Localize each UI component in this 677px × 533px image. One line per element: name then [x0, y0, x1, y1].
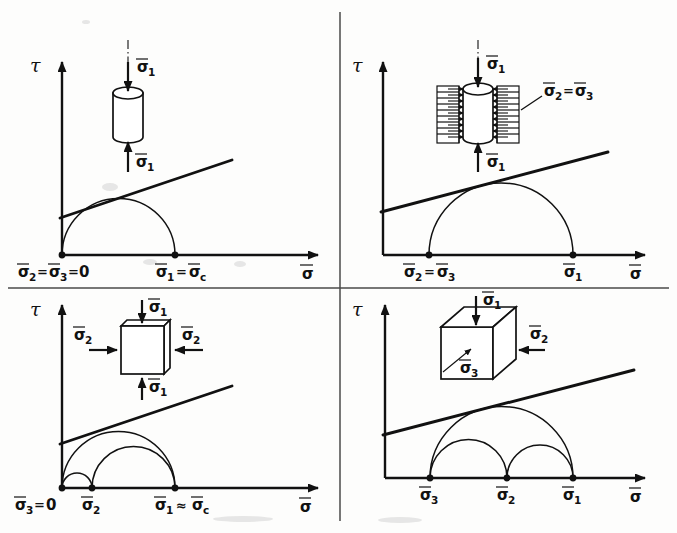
svg-text:=: =	[68, 264, 79, 279]
svg-text:σ: σ	[630, 488, 642, 506]
sigma-axis-label-tl: σ	[300, 265, 314, 283]
cylinder-body-tr	[463, 89, 493, 144]
svg-text:1: 1	[160, 386, 167, 398]
svg-text:=: =	[37, 264, 48, 279]
svg-text:1: 1	[160, 306, 167, 318]
cylinder-body-tl	[113, 93, 143, 143]
svg-text:2: 2	[508, 494, 515, 506]
svg-text:σ: σ	[300, 498, 312, 516]
svg-text:c: c	[203, 504, 209, 516]
svg-text:σ: σ	[564, 263, 576, 281]
svg-text:σ: σ	[49, 263, 61, 281]
tick-dot-br-sigma1	[570, 475, 577, 482]
svg-text:=: =	[424, 264, 435, 279]
svg-text:0: 0	[46, 496, 56, 514]
svg-text:1: 1	[574, 494, 581, 506]
svg-text:=: =	[176, 264, 187, 279]
svg-text:σ: σ	[487, 55, 499, 73]
tau-axis-label-br: τ	[352, 298, 363, 320]
svg-text:≈: ≈	[176, 498, 187, 513]
svg-text:σ: σ	[483, 291, 495, 309]
svg-text:σ: σ	[544, 82, 556, 100]
svg-text:σ: σ	[149, 378, 161, 396]
svg-text:1: 1	[167, 271, 174, 283]
svg-text:1: 1	[166, 504, 173, 516]
svg-text:2: 2	[541, 333, 548, 345]
block-right-face-bl	[164, 320, 170, 374]
svg-text:σ: σ	[530, 325, 542, 343]
tick-dot-br-sigma2	[504, 475, 511, 482]
svg-text:c: c	[200, 271, 206, 283]
svg-text:σ: σ	[563, 486, 575, 504]
mohr-circle-figure: τ σ σ 2 = σ 3 = 0 σ 1 = σ	[0, 0, 677, 533]
sigma-axis-label-br: σ	[629, 488, 642, 506]
svg-text:0: 0	[79, 263, 89, 281]
svg-text:σ: σ	[136, 153, 148, 171]
svg-text:2: 2	[193, 334, 200, 346]
svg-text:3: 3	[448, 271, 455, 283]
tick-dot-tl-sigma3	[59, 252, 66, 259]
svg-text:σ: σ	[420, 486, 432, 504]
svg-text:σ: σ	[74, 326, 86, 344]
block-front-face-bl	[121, 326, 164, 374]
svg-text:σ: σ	[155, 496, 167, 514]
svg-text:1: 1	[575, 271, 582, 283]
tick-dot-tl-sigma1	[172, 252, 179, 259]
svg-text:1: 1	[498, 63, 505, 75]
svg-text:2: 2	[29, 271, 36, 283]
svg-text:2: 2	[85, 334, 92, 346]
svg-text:σ: σ	[497, 486, 509, 504]
svg-text:1: 1	[498, 161, 505, 173]
svg-text:σ: σ	[460, 359, 472, 377]
tick-dot-br-sigma3	[427, 475, 434, 482]
svg-text:σ: σ	[192, 496, 204, 514]
svg-text:1: 1	[147, 161, 154, 173]
svg-text:3: 3	[431, 494, 438, 506]
svg-text:1: 1	[148, 66, 155, 78]
figure-canvas: τ σ σ 2 = σ 3 = 0 σ 1 = σ	[0, 0, 677, 533]
svg-text:σ: σ	[487, 153, 499, 171]
svg-text:σ: σ	[82, 496, 94, 514]
svg-text:σ: σ	[137, 58, 149, 76]
tick-dot-bl-sigma2	[89, 485, 96, 492]
svg-text:σ: σ	[189, 263, 201, 281]
sigma-axis-label-tr: σ	[629, 265, 642, 283]
svg-text:=: =	[34, 497, 45, 512]
tick-dot-tr-sigma1	[570, 252, 577, 259]
svg-text:σ: σ	[156, 263, 168, 281]
sigma-axis-label-bl: σ	[299, 498, 312, 516]
svg-text:3: 3	[586, 90, 593, 102]
tick-dot-tr-sigma23	[426, 252, 433, 259]
tau-axis-label-tr: τ	[352, 54, 363, 76]
svg-text:1: 1	[494, 299, 501, 311]
svg-text:3: 3	[471, 367, 478, 379]
svg-text:σ: σ	[437, 263, 449, 281]
tick-label-tl-left: σ 2 = σ 3 = 0	[17, 263, 89, 283]
svg-text:3: 3	[60, 271, 67, 283]
svg-text:=: =	[563, 83, 574, 98]
svg-text:2: 2	[555, 90, 562, 102]
tick-dot-bl-sigma1	[172, 485, 179, 492]
svg-text:σ: σ	[18, 263, 30, 281]
svg-text:2: 2	[93, 504, 100, 516]
tau-axis-label-tl: τ	[30, 54, 41, 76]
svg-text:σ: σ	[302, 265, 314, 283]
svg-text:σ: σ	[182, 326, 194, 344]
tick-dot-bl-sigma3	[59, 485, 66, 492]
svg-text:σ: σ	[630, 265, 642, 283]
svg-text:3: 3	[26, 504, 33, 516]
svg-text:σ: σ	[404, 263, 416, 281]
svg-text:σ: σ	[15, 496, 27, 514]
svg-text:2: 2	[415, 271, 422, 283]
tau-axis-label-bl: τ	[30, 298, 41, 320]
block-top-face-bl	[121, 320, 170, 326]
svg-text:σ: σ	[149, 298, 161, 316]
svg-text:σ: σ	[575, 82, 587, 100]
